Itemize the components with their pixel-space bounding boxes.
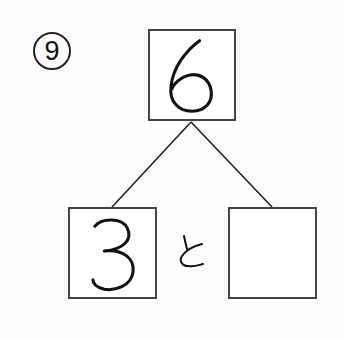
problem-number: 9 — [33, 32, 71, 70]
part-left-box: 3 — [68, 207, 157, 299]
answer-value — [230, 209, 231, 210]
answer-box[interactable] — [228, 207, 317, 299]
connector-line-left — [112, 122, 191, 207]
connector-line-right — [191, 122, 272, 207]
handwritten-to-icon — [174, 232, 208, 272]
whole-number-box: 6 — [148, 29, 236, 121]
connector-word: と — [174, 232, 208, 272]
handwritten-three-icon — [70, 209, 155, 297]
handwritten-six-icon — [150, 31, 234, 119]
